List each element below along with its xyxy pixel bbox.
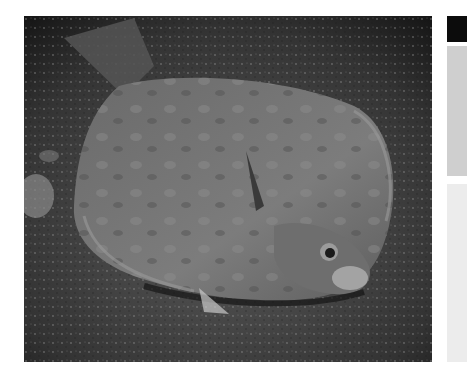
adjacent-card-body [447, 184, 467, 362]
adjacent-card-partial[interactable] [447, 16, 467, 362]
fish-mouth [332, 266, 368, 290]
flounder-illustration [24, 16, 432, 362]
adjacent-card-header [447, 16, 467, 42]
flounder-photo [24, 16, 432, 362]
adjacent-card-thumbnail [447, 46, 467, 176]
